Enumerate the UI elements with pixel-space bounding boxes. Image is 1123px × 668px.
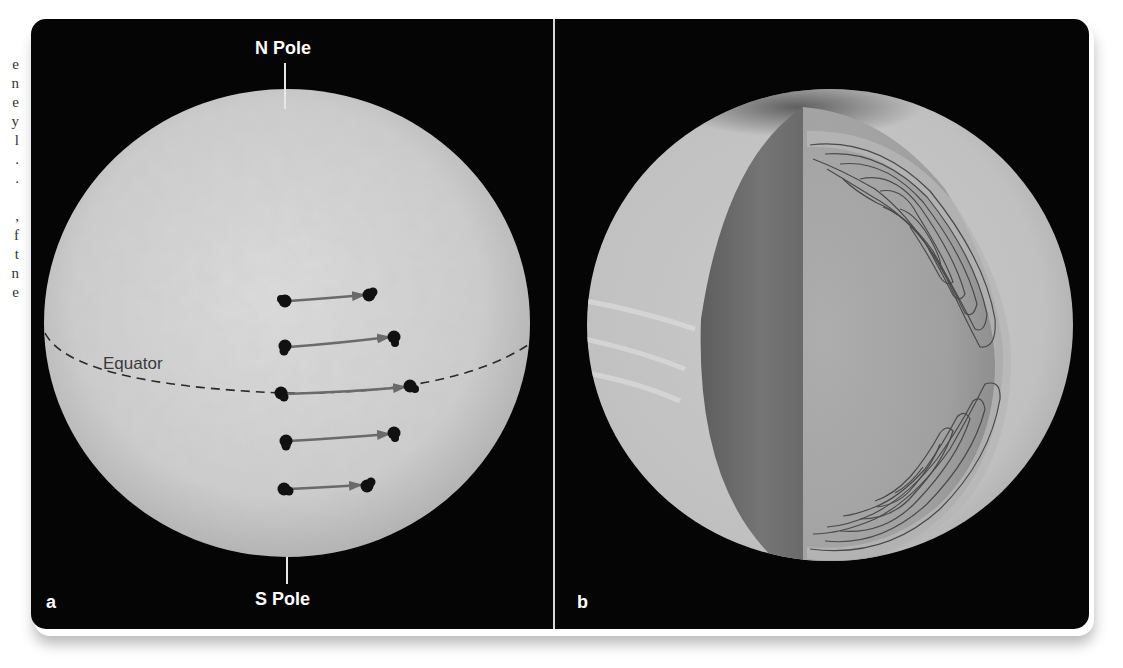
panel-b-meridional-circulation: b xyxy=(555,19,1089,629)
sun-surface-diagram xyxy=(31,19,553,629)
margin-fragment: , xyxy=(0,207,19,226)
panel-b-letter: b xyxy=(577,592,588,613)
north-pole-label: N Pole xyxy=(255,38,311,59)
margin-fragment: l xyxy=(0,131,19,150)
south-pole-label: S Pole xyxy=(255,589,310,610)
equator-label: Equator xyxy=(103,354,163,374)
margin-fragment: n xyxy=(0,74,19,93)
margin-fragment: t xyxy=(0,245,19,264)
margin-fragment: . xyxy=(0,150,19,169)
page-margin-text: e n e y l . . , f t n e xyxy=(0,55,19,302)
margin-fragment: e xyxy=(0,55,19,74)
sun-cutaway-diagram xyxy=(555,19,1089,629)
margin-fragment: e xyxy=(0,93,19,112)
margin-fragment: n xyxy=(0,264,19,283)
margin-fragment: . xyxy=(0,169,19,188)
figure-frame: N Pole S Pole Equator a xyxy=(31,19,1089,629)
margin-fragment: f xyxy=(0,226,19,245)
margin-fragment: e xyxy=(0,283,19,302)
margin-fragment: y xyxy=(0,112,19,131)
panel-a-differential-rotation: N Pole S Pole Equator a xyxy=(31,19,553,629)
panel-a-letter: a xyxy=(46,592,56,613)
margin-fragment xyxy=(0,188,19,207)
